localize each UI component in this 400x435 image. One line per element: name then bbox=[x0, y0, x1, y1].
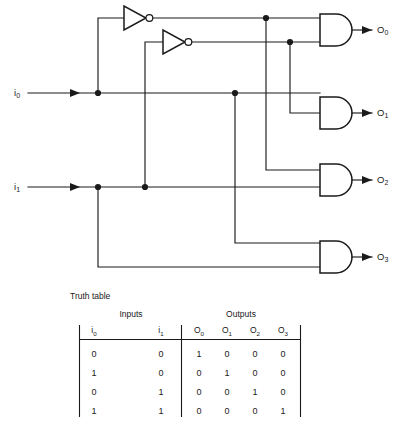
junction-dot-i1-inverter bbox=[142, 184, 148, 190]
i0-branch-to-inverter bbox=[98, 18, 124, 93]
not-gate-i1-triangle bbox=[163, 30, 185, 54]
i0-input-arrowhead bbox=[70, 89, 80, 97]
not-gate-i1-bubble bbox=[185, 39, 192, 46]
cell-r3-c3: 0 bbox=[224, 406, 229, 416]
i1-input-arrowhead bbox=[70, 183, 80, 191]
cell-r2-c1: 1 bbox=[158, 387, 163, 397]
table-row: 0 0 1 0 0 0 bbox=[91, 349, 285, 359]
table-row: 1 0 0 1 0 0 bbox=[91, 368, 285, 378]
cell-r0-c3: 0 bbox=[224, 349, 229, 359]
truth-table-col-O0: O0 bbox=[194, 325, 205, 337]
not-gate-i0-bubble bbox=[146, 15, 153, 22]
and-gate-O0-output-arrowhead bbox=[362, 26, 372, 34]
decoder-figure: O0 O1 O2 O3 i0 i1 Truth table bbox=[0, 0, 400, 435]
cell-r1-c5: 0 bbox=[280, 368, 285, 378]
and-gate-O1-output-arrowhead bbox=[362, 109, 372, 117]
cell-r2-c0: 0 bbox=[91, 387, 96, 397]
truth-table-col-i0: i0 bbox=[91, 325, 97, 337]
not-i1-branch-to-and1 bbox=[290, 42, 320, 113]
input-label-i0: i0 bbox=[14, 87, 20, 99]
cell-r1-c4: 0 bbox=[252, 368, 257, 378]
cell-r2-c5: 0 bbox=[280, 387, 285, 397]
junction-dot-i1 bbox=[95, 184, 101, 190]
truth-table: Truth table Inputs Outputs i0 i1 O0 O1 O… bbox=[70, 291, 301, 417]
cell-r1-c1: 0 bbox=[158, 368, 163, 378]
truth-table-col-O1: O1 bbox=[222, 325, 233, 337]
truth-table-group-outputs: Outputs bbox=[226, 309, 256, 319]
junction-dot-not-i1 bbox=[287, 39, 293, 45]
i0-branch-to-and3 bbox=[235, 93, 320, 243]
output-label-O2: O2 bbox=[377, 174, 388, 186]
and-gate-O0-body bbox=[320, 14, 352, 46]
truth-table-group-inputs: Inputs bbox=[119, 309, 142, 319]
and-gate-O2-body bbox=[320, 164, 352, 196]
cell-r1-c3: 1 bbox=[224, 368, 229, 378]
cell-r3-c4: 0 bbox=[252, 406, 257, 416]
cell-r0-c5: 0 bbox=[280, 349, 285, 359]
output-label-O0: O0 bbox=[377, 24, 388, 36]
cell-r3-c5: 1 bbox=[280, 406, 285, 416]
table-row: 0 1 0 0 1 0 bbox=[91, 387, 285, 397]
i1-branch-to-inverter bbox=[145, 42, 163, 187]
not-gate-i0 bbox=[124, 6, 320, 170]
cell-r2-c2: 0 bbox=[196, 387, 201, 397]
truth-table-col-O3: O3 bbox=[278, 325, 289, 337]
figure-canvas: O0 O1 O2 O3 i0 i1 Truth table bbox=[0, 0, 400, 435]
and-gate-O2-output-arrowhead bbox=[362, 176, 372, 184]
input-i0-wire bbox=[28, 18, 320, 243]
cell-r1-c2: 0 bbox=[196, 368, 201, 378]
truth-table-col-i1: i1 bbox=[158, 325, 164, 337]
i1-branch-to-and3 bbox=[98, 187, 320, 267]
and-gate-O3-output-arrowhead bbox=[362, 253, 372, 261]
and-gate-O3: O3 bbox=[320, 241, 388, 273]
junction-dot-i0-and3 bbox=[232, 90, 238, 96]
truth-table-col-O2: O2 bbox=[250, 325, 261, 337]
cell-r3-c2: 0 bbox=[196, 406, 201, 416]
cell-r0-c2: 1 bbox=[196, 349, 201, 359]
and-gate-O0: O0 bbox=[320, 14, 388, 46]
and-gate-O2: O2 bbox=[320, 164, 388, 196]
cell-r0-c4: 0 bbox=[252, 349, 257, 359]
cell-r2-c4: 1 bbox=[252, 387, 257, 397]
table-row: 1 1 0 0 0 1 bbox=[91, 406, 285, 416]
and-gate-O3-body bbox=[320, 241, 352, 273]
cell-r3-c1: 1 bbox=[158, 406, 163, 416]
input-i1-wire bbox=[28, 42, 320, 267]
truth-table-caption: Truth table bbox=[70, 291, 111, 301]
logic-diagram: O0 O1 O2 O3 i0 i1 bbox=[14, 6, 388, 273]
cell-r3-c0: 1 bbox=[91, 406, 96, 416]
not-gate-i1 bbox=[163, 30, 320, 113]
junction-dot-i0 bbox=[95, 90, 101, 96]
cell-r0-c1: 0 bbox=[158, 349, 163, 359]
output-label-O3: O3 bbox=[377, 251, 388, 263]
not-gate-i0-triangle bbox=[124, 6, 146, 30]
cell-r2-c3: 0 bbox=[224, 387, 229, 397]
cell-r0-c0: 0 bbox=[91, 349, 96, 359]
input-label-i1: i1 bbox=[14, 181, 20, 193]
output-label-O1: O1 bbox=[377, 107, 388, 119]
cell-r1-c0: 1 bbox=[91, 368, 96, 378]
and-gate-O1-body bbox=[320, 97, 352, 129]
junction-dot-not-i0 bbox=[263, 15, 269, 21]
and-gate-O1: O1 bbox=[320, 97, 388, 129]
not-i0-branch-to-and2 bbox=[266, 18, 320, 170]
